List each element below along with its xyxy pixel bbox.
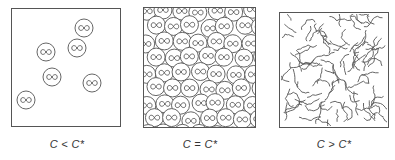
label-semidilute: C > C* bbox=[264, 138, 395, 150]
chain-segments bbox=[278, 8, 393, 132]
semidilute-diagram bbox=[0, 0, 395, 160]
panel-semidilute: C > C* bbox=[0, 0, 395, 160]
